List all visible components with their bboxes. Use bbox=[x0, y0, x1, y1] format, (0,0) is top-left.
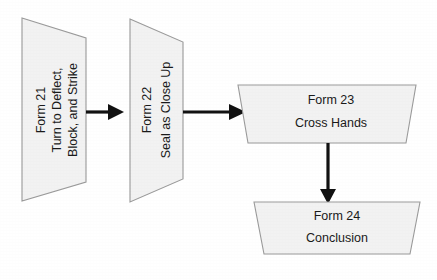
node-form-24[interactable]: Form 24 Conclusion bbox=[254, 202, 420, 254]
form-22-shape bbox=[130, 19, 183, 202]
arrow-21-22-head bbox=[108, 104, 124, 120]
arrow-form21-to-form22 bbox=[86, 104, 124, 120]
form-22-line1: Form 22 bbox=[140, 87, 154, 134]
form-24-line1: Form 24 bbox=[314, 209, 361, 223]
arrow-form22-to-form23 bbox=[183, 104, 246, 120]
form-21-line2: Turn to Deflect, bbox=[50, 68, 64, 153]
node-form-22[interactable]: Form 22 Seal as Close Up bbox=[130, 19, 183, 202]
diagram-canvas: Form 21 Turn to Deflect, Block, and Stri… bbox=[0, 0, 437, 280]
form-21-line1: Form 21 bbox=[34, 87, 48, 134]
node-form-23[interactable]: Form 23 Cross Hands bbox=[238, 85, 416, 143]
arrow-form23-to-form24 bbox=[320, 143, 336, 204]
form-24-line2: Conclusion bbox=[306, 231, 368, 245]
form-21-line3: Block, and Strike bbox=[66, 63, 80, 157]
form-23-line2: Cross Hands bbox=[295, 116, 367, 130]
flowchart-diagram: Form 21 Turn to Deflect, Block, and Stri… bbox=[0, 0, 437, 280]
form-23-line1: Form 23 bbox=[308, 93, 355, 107]
form-22-line2: Seal as Close Up bbox=[159, 62, 173, 159]
node-form-21[interactable]: Form 21 Turn to Deflect, Block, and Stri… bbox=[22, 18, 86, 201]
